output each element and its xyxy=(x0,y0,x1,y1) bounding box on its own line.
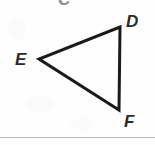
vertex-label-f: F xyxy=(124,113,134,130)
vertex-label-c: C xyxy=(58,0,70,8)
vertex-label-d: D xyxy=(126,13,138,30)
vertex-label-e: E xyxy=(15,51,26,68)
triangle-outline xyxy=(39,27,120,110)
bottom-divider xyxy=(0,137,155,138)
geometry-figure: C D E F xyxy=(0,0,155,145)
